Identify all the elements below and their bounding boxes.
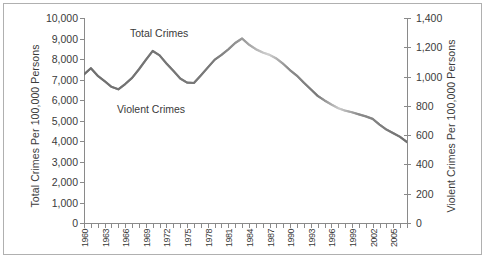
right-axis-line — [407, 18, 408, 223]
x-tick-label: 1978 — [205, 229, 214, 247]
x-tick-label: 1969 — [143, 229, 152, 247]
x-tickmark — [283, 224, 284, 228]
left-ytick-label: 9,000 — [36, 34, 78, 45]
x-tickmark — [187, 224, 188, 228]
x-tickmark — [400, 224, 401, 228]
x-tickmark — [180, 224, 181, 228]
left-ytick-label: 1,000 — [36, 198, 78, 209]
left-ytick-label: 2,000 — [36, 177, 78, 188]
x-tickmark — [249, 224, 250, 228]
left-ytick-label: 0 — [36, 218, 78, 229]
right-ytick-label: 600 — [416, 130, 456, 141]
right-ytick-label: 1,400 — [416, 13, 456, 24]
left-ytick-label: 10,000 — [36, 13, 78, 24]
left-ytick-label: 6,000 — [36, 95, 78, 106]
x-tick-label: 2005 — [390, 229, 399, 247]
x-tickmark — [263, 224, 264, 228]
x-tickmark — [318, 224, 319, 228]
x-tickmark — [118, 224, 119, 228]
x-tickmark — [146, 224, 147, 228]
x-tick-label: 1972 — [163, 229, 172, 247]
x-tick-label: 1981 — [225, 229, 234, 247]
left-ytick-label: 7,000 — [36, 75, 78, 86]
x-tickmark — [290, 224, 291, 228]
x-tickmark — [208, 224, 209, 228]
x-tickmark — [380, 224, 381, 228]
x-tickmark — [304, 224, 305, 228]
x-tickmark — [373, 224, 374, 228]
x-tick-label: 1996 — [328, 229, 337, 247]
x-tickmark — [352, 224, 353, 228]
x-tick-label: 1984 — [246, 229, 255, 247]
left-ytick-label: 5,000 — [36, 116, 78, 127]
x-tickmark — [91, 224, 92, 228]
x-tickmark — [359, 224, 360, 228]
right-ytick-label: 800 — [416, 101, 456, 112]
x-tick-label: 1963 — [102, 229, 111, 247]
x-tick-label: 2002 — [370, 229, 379, 247]
right-ytick-label: 1,200 — [416, 42, 456, 53]
x-tickmark — [160, 224, 161, 228]
x-tickmark — [166, 224, 167, 228]
left-ytick-label: 4,000 — [36, 136, 78, 147]
x-tickmark — [84, 224, 85, 228]
x-tickmark — [125, 224, 126, 228]
x-tickmark — [228, 224, 229, 228]
x-tickmark — [393, 224, 394, 228]
x-tickmark — [215, 224, 216, 228]
plot-area — [84, 18, 407, 223]
right-ytick-label: 0 — [416, 218, 456, 229]
x-tickmark — [331, 224, 332, 228]
right-ytick-label: 200 — [416, 189, 456, 200]
left-ytick-label: 8,000 — [36, 54, 78, 65]
x-tickmark — [297, 224, 298, 228]
series-lines — [84, 18, 407, 223]
x-tickmark — [194, 224, 195, 228]
left-ytick-label: 3,000 — [36, 157, 78, 168]
x-tickmark — [111, 224, 112, 228]
x-tickmark — [256, 224, 257, 228]
x-tickmark — [98, 224, 99, 228]
series-line-violent-crimes — [84, 39, 407, 143]
x-tick-label: 1966 — [122, 229, 131, 247]
x-tick-label: 1960 — [81, 229, 90, 247]
x-tickmark — [386, 224, 387, 228]
series-line-total-crimes — [84, 39, 407, 143]
x-tickmark — [276, 224, 277, 228]
x-tickmark — [105, 224, 106, 228]
x-tickmark — [153, 224, 154, 228]
x-tick-label: 1975 — [184, 229, 193, 247]
x-tick-label: 1987 — [267, 229, 276, 247]
x-tickmark — [242, 224, 243, 228]
x-tick-label: 1993 — [308, 229, 317, 247]
x-tickmark — [407, 224, 408, 228]
x-tickmark — [270, 224, 271, 228]
right-ytick-label: 400 — [416, 159, 456, 170]
x-tickmark — [173, 224, 174, 228]
right-ytick-label: 1,000 — [416, 72, 456, 83]
x-tick-label: 1990 — [287, 229, 296, 247]
series-label-total-crimes: Total Crimes — [130, 27, 188, 39]
x-tickmark — [132, 224, 133, 228]
x-tickmark — [325, 224, 326, 228]
x-tickmark — [221, 224, 222, 228]
x-tick-label: 1999 — [349, 229, 358, 247]
x-tickmark — [139, 224, 140, 228]
x-tickmark — [201, 224, 202, 228]
x-tickmark — [235, 224, 236, 228]
x-tickmark — [338, 224, 339, 228]
x-tickmark — [311, 224, 312, 228]
x-tickmark — [345, 224, 346, 228]
crime-rate-chart: Total Crimes Per 100,000 Persons Violent… — [0, 0, 486, 266]
x-tickmark — [366, 224, 367, 228]
series-label-violent-crimes: Violent Crimes — [117, 103, 185, 115]
